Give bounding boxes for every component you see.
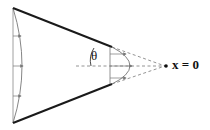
extension-line-bottom (112, 66, 165, 84)
apex-point (164, 64, 168, 68)
wedge-wall-bottom (13, 84, 112, 123)
wedge-wall-top (13, 8, 112, 47)
inlet-velocity-profile (13, 8, 22, 123)
apex-label: x = 0 (172, 57, 199, 73)
outlet-velocity-profile (112, 47, 130, 84)
extension-line-top (112, 47, 165, 66)
angle-label: θ (91, 48, 97, 64)
